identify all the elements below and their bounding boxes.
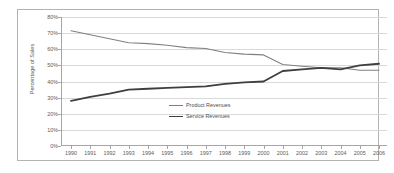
x-axis-tick-mark [341, 146, 342, 149]
x-axis-tick-label: 1997 [200, 150, 212, 156]
legend-label: Product Revenues [186, 102, 230, 108]
x-axis-tick-mark [167, 146, 168, 149]
x-axis-tick-mark [129, 146, 130, 149]
chart-figure: Percentage of Sales 80%70%60%50%40%30%20… [0, 0, 394, 173]
x-axis-tick-mark [244, 146, 245, 149]
x-axis-tick-mark [283, 146, 284, 149]
y-axis-tick-label: 50% [47, 62, 58, 68]
x-axis-tick-label: 2005 [354, 150, 366, 156]
series-line-product-revenues [71, 31, 379, 71]
y-axis-tick-label: 70% [47, 30, 58, 36]
plot-area: 80%70%60%50%40%30%20%10%0% 1990199119921… [61, 17, 387, 146]
x-axis-tick-label: 2003 [315, 150, 327, 156]
legend-line-swatch [169, 105, 183, 106]
x-axis-tick-label: 1991 [84, 150, 96, 156]
x-axis-tick-label: 2001 [277, 150, 289, 156]
x-axis-tick-label: 1994 [142, 150, 154, 156]
x-axis-tick-label: 2006 [373, 150, 385, 156]
legend-line-swatch [169, 116, 183, 117]
legend-item-service-revenues[interactable]: Service Revenues [169, 113, 230, 119]
y-axis-tick-label: 30% [47, 95, 58, 101]
x-axis-tick-label: 2004 [335, 150, 347, 156]
y-axis-tick-label: 20% [47, 111, 58, 117]
y-axis-tick-label: 0% [50, 143, 58, 149]
legend-item-product-revenues[interactable]: Product Revenues [169, 102, 230, 108]
x-axis-tick-mark [379, 146, 380, 149]
x-axis-tick-label: 1995 [161, 150, 173, 156]
x-axis-tick-label: 1996 [181, 150, 193, 156]
x-axis-tick-mark [90, 146, 91, 149]
legend-label: Service Revenues [186, 113, 230, 119]
series-line-service-revenues [71, 64, 379, 101]
x-axis-tick-mark [148, 146, 149, 149]
x-axis-tick-mark [110, 146, 111, 149]
x-axis-tick-mark [321, 146, 322, 149]
x-axis-tick-label: 1990 [65, 150, 77, 156]
y-axis-tick-label: 40% [47, 79, 58, 85]
x-axis-tick-mark [225, 146, 226, 149]
x-axis-tick-label: 1992 [104, 150, 116, 156]
x-axis-tick-mark [187, 146, 188, 149]
y-axis-tick-label: 10% [47, 127, 58, 133]
x-axis-tick-mark [206, 146, 207, 149]
data-series-layer [61, 17, 387, 146]
x-axis-tick-label: 1999 [238, 150, 250, 156]
x-axis-tick-mark [302, 146, 303, 149]
x-axis-tick-mark [264, 146, 265, 149]
y-axis-title: Percentage of Sales [29, 29, 35, 109]
y-axis-tick-mark [58, 146, 61, 147]
x-axis-tick-mark [71, 146, 72, 149]
x-axis-tick-label: 2002 [296, 150, 308, 156]
x-axis-tick-label: 1998 [219, 150, 231, 156]
x-axis-tick-mark [360, 146, 361, 149]
chart-frame: Percentage of Sales 80%70%60%50%40%30%20… [17, 9, 379, 161]
x-axis-tick-label: 1993 [123, 150, 135, 156]
x-axis-tick-label: 2000 [258, 150, 270, 156]
y-axis-tick-label: 80% [47, 14, 58, 20]
y-axis-tick-label: 60% [47, 46, 58, 52]
chart-legend: Product RevenuesService Revenues [169, 102, 230, 119]
